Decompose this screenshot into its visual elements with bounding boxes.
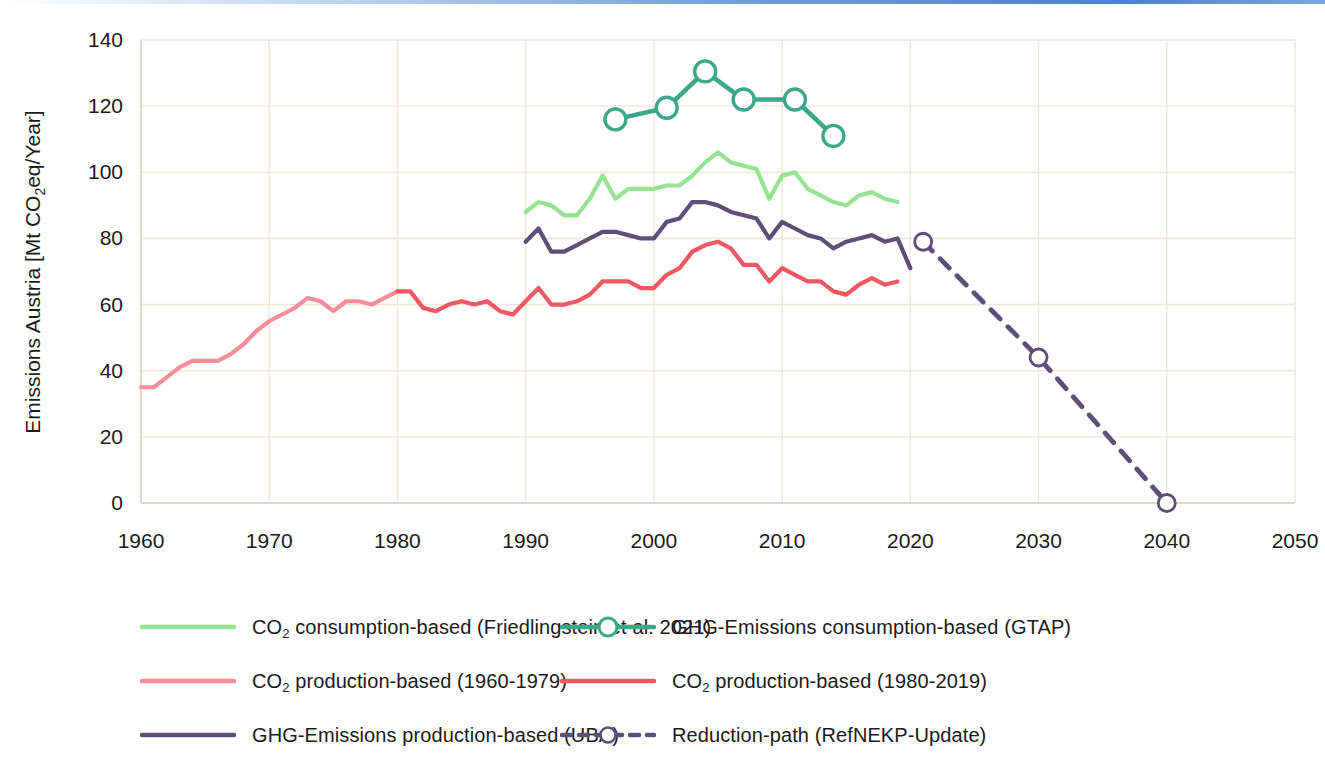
x-axis-tick-label: 2050 xyxy=(1272,529,1319,552)
emissions-line-chart: 0204060801001201401960197019801990200020… xyxy=(0,0,1325,600)
data-point-marker-reduction_path xyxy=(1030,349,1047,366)
legend-row: CO2 production-based (1960-1979)CO2 prod… xyxy=(0,654,1325,708)
data-point-marker-ghg_consumption_gtap xyxy=(695,61,716,82)
legend-label-co2_production_1960_1979: CO2 production-based (1960-1979) xyxy=(252,670,567,693)
y-axis-tick-label: 40 xyxy=(100,359,123,382)
x-axis-tick-label: 2040 xyxy=(1143,529,1190,552)
y-axis-title: Emissions Austria [Mt CO2eq/Year] xyxy=(21,110,48,433)
legend-label-subscript: 2 xyxy=(702,680,709,695)
y-axis-tick-label: 20 xyxy=(100,425,123,448)
legend-item-co2_production_1980_2019[interactable]: CO2 production-based (1980-2019) xyxy=(540,669,1140,693)
legend-marker-reduction_path xyxy=(601,728,616,743)
y-axis-tick-label: 140 xyxy=(88,28,123,51)
legend-label-reduction_path: Reduction-path (RefNEKP-Update) xyxy=(672,724,986,747)
legend-swatch-co2_consumption_friedlingstein xyxy=(140,615,236,639)
data-point-marker-ghg_consumption_gtap xyxy=(784,89,805,110)
legend-label-subscript: 2 xyxy=(282,626,289,641)
legend-swatch-ghg_consumption_gtap xyxy=(560,615,656,639)
y-axis-tick-label: 120 xyxy=(88,94,123,117)
legend-row: CO2 consumption-based (Friedlingstein et… xyxy=(0,600,1325,654)
y-axis-tick-label: 60 xyxy=(100,293,123,316)
x-axis-tick-label: 2020 xyxy=(887,529,934,552)
y-axis-title-text: Emissions Austria [Mt CO2eq/Year] xyxy=(21,110,48,433)
legend-marker-ghg_consumption_gtap xyxy=(599,618,617,636)
legend-swatch-ghg_production_uba xyxy=(140,723,236,747)
legend-item-co2_production_1960_1979[interactable]: CO2 production-based (1960-1979) xyxy=(0,669,540,693)
x-axis-tick-label: 2000 xyxy=(631,529,678,552)
x-axis-tick-label: 1970 xyxy=(246,529,293,552)
y-axis-tick-label: 0 xyxy=(111,491,123,514)
x-axis-tick-label: 1960 xyxy=(118,529,165,552)
y-axis-tick-label: 100 xyxy=(88,160,123,183)
legend-item-reduction_path[interactable]: Reduction-path (RefNEKP-Update) xyxy=(540,723,1140,747)
data-point-marker-ghg_consumption_gtap xyxy=(656,97,677,118)
y-axis-tick-label: 80 xyxy=(100,226,123,249)
legend-label-co2_production_1980_2019: CO2 production-based (1980-2019) xyxy=(672,670,987,693)
legend-label-subscript: 2 xyxy=(282,680,289,695)
x-axis-tick-label: 1980 xyxy=(374,529,421,552)
legend-label-ghg_consumption_gtap: GHG-Emissions consumption-based (GTAP) xyxy=(672,616,1071,639)
legend-row: GHG-Emissions production-based (UBA)Redu… xyxy=(0,708,1325,762)
data-point-marker-ghg_consumption_gtap xyxy=(823,125,844,146)
data-point-marker-reduction_path xyxy=(1158,495,1175,512)
chart-legend: CO2 consumption-based (Friedlingstein et… xyxy=(0,600,1325,769)
legend-swatch-co2_production_1980_2019 xyxy=(560,669,656,693)
x-axis-tick-label: 2010 xyxy=(759,529,806,552)
x-axis-tick-label: 2030 xyxy=(1015,529,1062,552)
data-point-marker-reduction_path xyxy=(915,233,932,250)
legend-swatch-co2_production_1960_1979 xyxy=(140,669,236,693)
data-point-marker-ghg_consumption_gtap xyxy=(733,89,754,110)
legend-swatch-reduction_path xyxy=(560,723,656,747)
data-point-marker-ghg_consumption_gtap xyxy=(605,109,626,130)
plot-area xyxy=(141,40,1295,503)
legend-item-ghg_consumption_gtap[interactable]: GHG-Emissions consumption-based (GTAP) xyxy=(540,615,1140,639)
x-axis-tick-label: 1990 xyxy=(502,529,549,552)
chart-svg: 0204060801001201401960197019801990200020… xyxy=(0,0,1325,600)
legend-item-ghg_production_uba[interactable]: GHG-Emissions production-based (UBA) xyxy=(0,723,540,747)
legend-item-co2_consumption_friedlingstein[interactable]: CO2 consumption-based (Friedlingstein et… xyxy=(0,615,540,639)
